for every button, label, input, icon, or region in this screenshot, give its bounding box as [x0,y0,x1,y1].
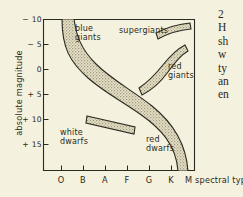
x-tick-k: K [161,175,181,185]
side-text-line-5: ty [218,62,243,75]
x-tick-f: F [117,175,137,185]
hr-diagram-page: absolute magnitude − 10 − 5 0 + 5 + 10 +… [0,0,243,197]
side-text-line-3: sh [218,35,243,48]
x-tick-b: B [73,175,93,185]
x-tick-o: O [51,175,71,185]
side-text-line-6: an [218,75,243,88]
x-tick-g: G [139,175,159,185]
side-text-line-1: 2 [218,8,243,21]
side-text-line-7: en [218,88,243,101]
side-text-line-4: w [218,48,243,61]
x-tick-a: A [95,175,115,185]
x-axis-title: M spectral type [185,175,243,185]
side-text-line-2: H [218,21,243,34]
x-axis-tick-labels: O B A F G K [0,0,243,197]
side-body-text: 2 H sh w ty an en [218,8,243,102]
